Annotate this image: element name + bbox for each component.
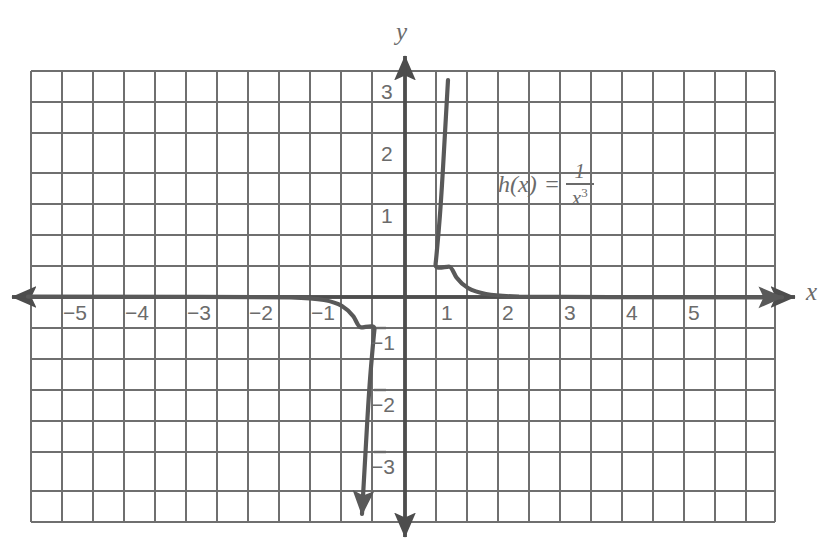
x-tick-label-4: 4 [626, 301, 638, 325]
y-axis-label: y [396, 18, 407, 46]
x-tick-label--5: −5 [63, 301, 87, 325]
x-tick-label-2: 2 [502, 301, 514, 325]
y-tick-label--1: −1 [371, 331, 395, 355]
x-tick-label-5: 5 [688, 301, 700, 325]
x-tick-label-1: 1 [441, 301, 453, 325]
x-tick-label--1: −1 [311, 301, 335, 325]
equation-denominator-exponent: 3 [581, 185, 588, 200]
chart-background [0, 0, 832, 543]
coordinate-plane-svg [0, 0, 832, 543]
x-tick-label-3: 3 [564, 301, 576, 325]
x-axis-label: x [806, 278, 817, 306]
equation-equals-sign: = [544, 171, 560, 198]
equation-denominator-base: x [572, 186, 581, 210]
equation-lhs: h(x) [498, 171, 537, 198]
y-tick-label-1: 1 [381, 204, 393, 228]
x-tick-label--3: −3 [187, 301, 211, 325]
x-tick-label--2: −2 [249, 301, 273, 325]
equation-denominator: x3 [566, 185, 594, 209]
x-tick-label--4: −4 [125, 301, 149, 325]
equation-fraction: 1 x3 [566, 160, 594, 209]
y-tick-label-3: 3 [381, 80, 393, 104]
y-tick-label-2: 2 [381, 142, 393, 166]
y-tick-label--2: −2 [371, 393, 395, 417]
y-tick-label--3: −3 [371, 455, 395, 479]
graph-figure: −5 −4 −3 −2 −1 1 2 3 4 5 3 2 1 −1 −2 −3 … [0, 0, 832, 543]
equation-numerator: 1 [569, 160, 592, 183]
function-equation-annotation: h(x) = 1 x3 [498, 160, 594, 209]
